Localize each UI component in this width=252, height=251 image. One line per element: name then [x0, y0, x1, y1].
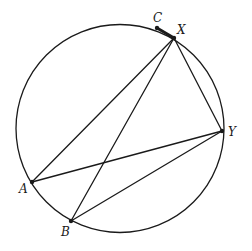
label-X: X: [176, 23, 186, 37]
point-B: [69, 219, 73, 223]
label-B: B: [60, 225, 70, 239]
segment-AY: [32, 131, 222, 182]
label-C: C: [153, 11, 162, 25]
point-markers: [30, 26, 224, 223]
segment-BY: [71, 131, 222, 221]
point-C: [155, 26, 159, 30]
circle-geometry-diagram: C X Y A B: [0, 0, 252, 251]
segment-AX: [32, 38, 174, 182]
label-A: A: [18, 182, 28, 196]
point-A: [30, 180, 34, 184]
point-labels: C X Y A B: [18, 11, 237, 239]
diagram-canvas: C X Y A B: [0, 0, 252, 251]
point-X: [172, 36, 176, 40]
label-Y: Y: [228, 125, 237, 139]
segment-BX: [71, 38, 174, 221]
chord-segments: [32, 28, 222, 221]
circumcircle: [16, 25, 224, 233]
point-Y: [220, 129, 224, 133]
